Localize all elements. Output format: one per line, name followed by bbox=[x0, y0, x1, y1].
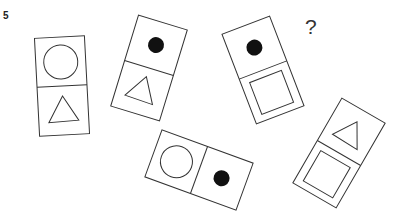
dot-icon bbox=[146, 35, 166, 55]
square-icon bbox=[250, 70, 294, 114]
domino-1[interactable] bbox=[34, 36, 89, 136]
square-icon bbox=[303, 151, 350, 198]
triangle-icon bbox=[48, 95, 79, 123]
dot-icon bbox=[244, 37, 265, 58]
dot-icon bbox=[211, 168, 232, 189]
domino-4[interactable] bbox=[145, 130, 253, 210]
circle-icon bbox=[156, 141, 197, 182]
domino-canvas bbox=[0, 0, 400, 216]
domino-5[interactable] bbox=[293, 98, 385, 208]
domino-3[interactable] bbox=[222, 16, 304, 124]
triangle-icon bbox=[332, 114, 369, 149]
domino-2[interactable] bbox=[111, 15, 188, 121]
triangle-icon bbox=[125, 72, 160, 104]
circle-icon bbox=[43, 44, 79, 80]
